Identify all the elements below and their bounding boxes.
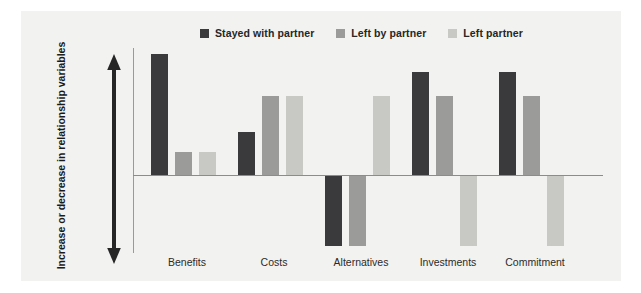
- bar-investments-stayed-with-partner: [412, 72, 429, 175]
- bar-costs-left-by-partner: [262, 96, 279, 175]
- bar-alternatives-left-partner: [373, 96, 390, 175]
- x-axis-label-costs: Costs: [238, 256, 310, 268]
- bar-group-commitment: [499, 48, 571, 253]
- bar-costs-stayed-with-partner: [238, 132, 255, 175]
- plot-area: [133, 48, 603, 253]
- legend-label: Left partner: [463, 27, 523, 39]
- legend-item-left-by-partner: Left by partner: [336, 27, 426, 39]
- x-axis-category-labels: Benefits Costs Alternatives Investments …: [133, 256, 603, 272]
- bar-commitment-left-by-partner: [523, 96, 540, 175]
- y-axis-line: [133, 48, 134, 253]
- bar-commitment-left-partner: [547, 176, 564, 246]
- bar-group-alternatives: [325, 48, 397, 253]
- bar-benefits-stayed-with-partner: [151, 54, 168, 175]
- chart-legend: Stayed with partner Left by partner Left…: [200, 25, 523, 41]
- legend-swatch-icon: [448, 29, 457, 38]
- bar-alternatives-left-by-partner: [349, 176, 366, 246]
- bar-alternatives-stayed-with-partner: [325, 176, 342, 246]
- y-axis-label-container: Increase or decrease in relationship var…: [44, 48, 80, 263]
- bar-group-investments: [412, 48, 484, 253]
- legend-item-stayed-with-partner: Stayed with partner: [200, 27, 314, 39]
- vertical-double-arrow-icon: [104, 54, 124, 264]
- x-axis-label-benefits: Benefits: [151, 256, 223, 268]
- chart-figure: Stayed with partner Left by partner Left…: [0, 0, 641, 293]
- legend-item-left-partner: Left partner: [448, 27, 523, 39]
- bar-group-costs: [238, 48, 310, 253]
- bar-benefits-left-by-partner: [175, 152, 192, 175]
- legend-swatch-icon: [336, 29, 345, 38]
- x-axis-label-alternatives: Alternatives: [325, 256, 397, 268]
- bar-investments-left-by-partner: [436, 96, 453, 175]
- bar-benefits-left-partner: [199, 152, 216, 175]
- bar-group-benefits: [151, 48, 223, 253]
- x-axis-label-commitment: Commitment: [499, 256, 571, 268]
- bar-commitment-stayed-with-partner: [499, 72, 516, 175]
- legend-label: Left by partner: [351, 27, 426, 39]
- bar-costs-left-partner: [286, 96, 303, 175]
- bar-investments-left-partner: [460, 176, 477, 246]
- legend-label: Stayed with partner: [215, 27, 314, 39]
- y-axis-label: Increase or decrease in relationship var…: [56, 42, 69, 270]
- legend-swatch-icon: [200, 29, 209, 38]
- x-axis-label-investments: Investments: [412, 256, 484, 268]
